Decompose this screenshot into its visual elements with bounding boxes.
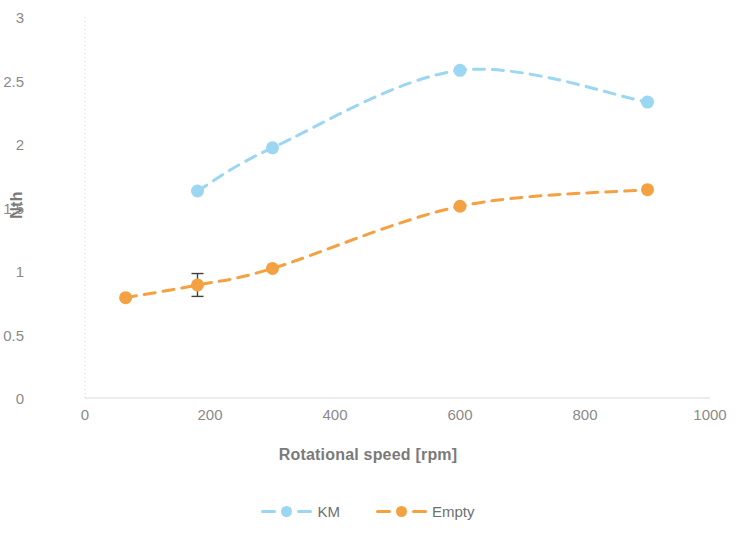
chart-legend: KMEmpty: [0, 503, 736, 520]
x-axis-title: Rotational speed [rpm]: [0, 446, 736, 464]
series-km: [191, 64, 654, 198]
x-tick-label: 0: [81, 406, 89, 423]
x-tick-label: 400: [322, 406, 347, 423]
chart-container: Nth 00.511.522.53 02004006008001000 Rota…: [0, 0, 736, 534]
legend-label: KM: [317, 503, 340, 520]
data-point-empty: [454, 200, 467, 213]
data-point-km: [641, 96, 654, 109]
y-tick-label: 3: [16, 9, 24, 26]
series-empty: [119, 183, 654, 304]
data-point-empty: [119, 291, 132, 304]
legend-marker-icon: [281, 506, 292, 517]
legend-dash-left-icon: [261, 510, 276, 513]
x-tick-label: 600: [447, 406, 472, 423]
legend-item-km[interactable]: KM: [261, 503, 340, 520]
legend-label: Empty: [432, 503, 475, 520]
data-point-empty: [191, 278, 204, 291]
data-point-km: [266, 141, 279, 154]
data-point-empty: [641, 183, 654, 196]
y-tick-label: 1.5: [3, 199, 24, 216]
y-tick-label: 1: [16, 263, 24, 280]
legend-dash-left-icon: [376, 510, 391, 513]
data-point-empty: [266, 262, 279, 275]
legend-marker-icon: [396, 506, 407, 517]
legend-dash-right-icon: [412, 510, 427, 513]
x-tick-label: 800: [572, 406, 597, 423]
legend-dash-right-icon: [297, 510, 312, 513]
x-tick-label: 1000: [693, 406, 726, 423]
plot-area: [78, 15, 711, 399]
data-point-km: [454, 64, 467, 77]
plot-svg: [78, 15, 711, 399]
data-point-km: [191, 184, 204, 197]
y-tick-label: 2: [16, 136, 24, 153]
series-line-empty: [126, 190, 648, 298]
y-tick-label: 0: [16, 390, 24, 407]
series-line-km: [198, 69, 648, 191]
y-tick-label: 2.5: [3, 72, 24, 89]
y-tick-label: 0.5: [3, 326, 24, 343]
x-tick-label: 200: [197, 406, 222, 423]
legend-item-empty[interactable]: Empty: [376, 503, 475, 520]
